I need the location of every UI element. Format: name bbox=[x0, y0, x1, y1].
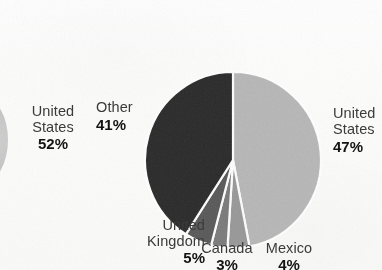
slice-label-other-percent: 41% bbox=[96, 117, 133, 134]
slice-label-united-states-percent: 47% bbox=[333, 139, 376, 156]
slice-label-canada: Canada 3% bbox=[196, 241, 258, 270]
slice-label-united-kingdom-line1: United bbox=[115, 218, 205, 234]
slice-label-mexico-name: Mexico bbox=[258, 241, 320, 257]
slice-label-other: Other 41% bbox=[96, 100, 133, 133]
slice-label-united-states-line1: United bbox=[333, 106, 376, 122]
pie-chart-figure: Other 41% United States 47% United Kingd… bbox=[0, 0, 382, 270]
slice-label-united-states: United States 47% bbox=[333, 106, 376, 155]
slice-label-united-kingdom: United Kingdom 5% bbox=[115, 218, 205, 266]
slice-label-united-kingdom-line2: Kingdom bbox=[115, 234, 205, 250]
slice-label-mexico-percent: 4% bbox=[258, 257, 320, 270]
slice-label-united-kingdom-percent: 5% bbox=[115, 250, 205, 267]
slice-label-united-states-line2: States bbox=[333, 122, 376, 138]
slice-label-canada-name: Canada bbox=[196, 241, 258, 257]
slice-label-mexico: Mexico 4% bbox=[258, 241, 320, 270]
slice-label-other-name: Other bbox=[96, 100, 133, 116]
slice-label-canada-percent: 3% bbox=[196, 257, 258, 270]
